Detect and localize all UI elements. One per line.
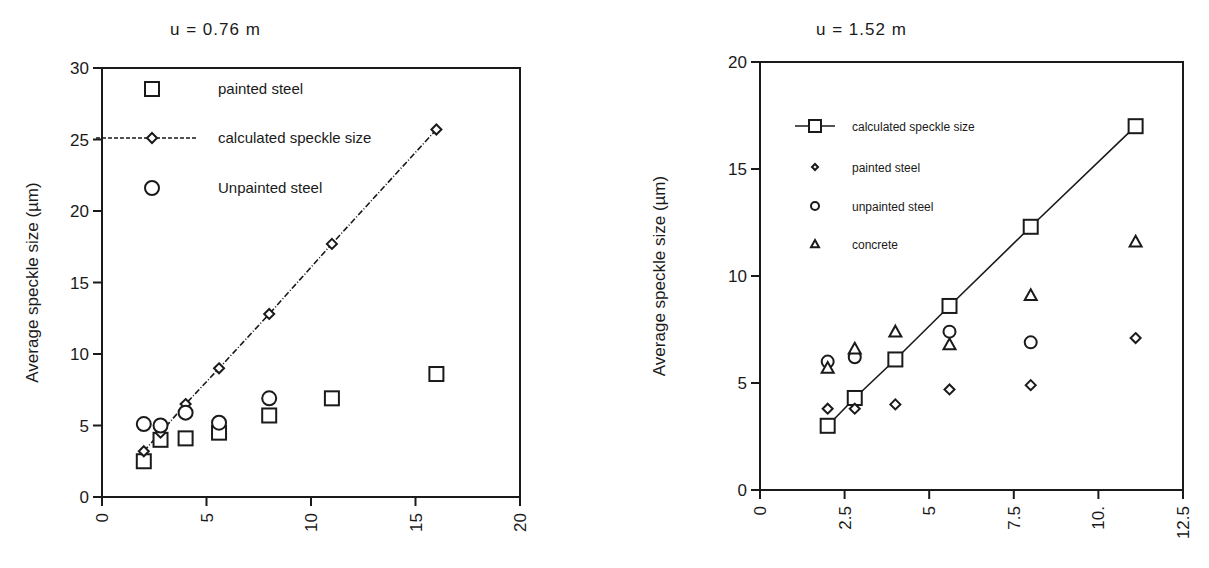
- data-point-square: [179, 431, 193, 445]
- legend-marker-diamond: [147, 133, 157, 143]
- data-point-square: [262, 408, 276, 422]
- legend-marker-square: [809, 120, 821, 132]
- data-point-diamond: [1026, 380, 1036, 390]
- legend-label: Unpainted steel: [218, 179, 322, 196]
- data-point-diamond: [1131, 333, 1141, 343]
- legend-marker-circle: [811, 202, 819, 210]
- data-point-diamond: [945, 384, 955, 394]
- y-tick-label: 0: [80, 488, 89, 507]
- y-tick-label: 25: [70, 131, 89, 150]
- legend-marker-square: [145, 82, 159, 96]
- y-tick-label: 15: [728, 160, 747, 179]
- x-tick-label: 0: [93, 513, 112, 522]
- data-point-circle: [212, 416, 226, 430]
- data-point-square: [888, 352, 902, 366]
- data-point-square: [325, 391, 339, 405]
- data-point-diamond: [823, 404, 833, 414]
- data-point-square: [1024, 220, 1038, 234]
- data-point-square: [1129, 119, 1143, 133]
- data-point-circle: [262, 391, 276, 405]
- plot-area-left: 05101520253005101520Average speckle size…: [0, 0, 600, 568]
- x-tick-label: 7.5: [1005, 506, 1024, 530]
- x-tick-label: 5: [198, 513, 217, 522]
- y-tick-label: 15: [70, 274, 89, 293]
- legend-label: calculated speckle size: [218, 129, 371, 146]
- y-tick-label: 5: [80, 417, 89, 436]
- chart-title-left: u = 0.76 m: [170, 20, 261, 40]
- legend-label: concrete: [852, 238, 898, 252]
- x-tick-label: 10.: [1089, 506, 1108, 530]
- x-tick-label: 10: [302, 513, 321, 532]
- legend-label: painted steel: [218, 80, 303, 97]
- y-tick-label: 30: [70, 59, 89, 78]
- chart-title-right: u = 1.52 m: [816, 20, 907, 40]
- legend-marker-circle: [145, 181, 159, 195]
- legend-marker-triangle: [811, 240, 819, 247]
- data-point-circle: [137, 417, 151, 431]
- data-point-triangle: [889, 326, 901, 337]
- data-point-square: [943, 299, 957, 313]
- y-tick-label: 20: [728, 53, 747, 72]
- data-point-triangle: [1130, 236, 1142, 247]
- chart-left: u = 0.76 m 05101520253005101520Average s…: [0, 0, 600, 568]
- data-point-triangle: [944, 338, 956, 349]
- y-axis-label: Average speckle size (µm): [23, 182, 42, 382]
- legend-label: painted steel: [852, 161, 920, 175]
- data-point-triangle: [849, 343, 861, 354]
- legend-label: calculated speckle size: [852, 120, 975, 134]
- y-tick-label: 5: [738, 374, 747, 393]
- x-tick-label: 12.5: [1174, 506, 1193, 539]
- legend-label: unpainted steel: [852, 200, 933, 214]
- y-tick-label: 10: [70, 345, 89, 364]
- data-point-circle: [944, 326, 956, 338]
- data-point-diamond: [890, 399, 900, 409]
- x-tick-label: 0: [751, 506, 770, 515]
- y-tick-label: 20: [70, 202, 89, 221]
- data-point-square: [429, 367, 443, 381]
- x-tick-label: 20: [511, 513, 530, 532]
- data-point-circle: [154, 419, 168, 433]
- chart-right: u = 1.52 m 0510152002.557.510.12.5Averag…: [620, 0, 1209, 568]
- y-tick-label: 0: [738, 481, 747, 500]
- x-tick-label: 5: [920, 506, 939, 515]
- y-tick-label: 10: [728, 267, 747, 286]
- legend-marker-diamond: [812, 164, 818, 170]
- data-point-triangle: [1025, 289, 1037, 300]
- plot-area-right: 0510152002.557.510.12.5Average speckle s…: [620, 0, 1209, 568]
- y-axis-label: Average speckle size (µm): [650, 176, 669, 376]
- x-tick-label: 15: [407, 513, 426, 532]
- data-point-circle: [179, 406, 193, 420]
- data-point-square: [821, 419, 835, 433]
- x-tick-label: 2.5: [836, 506, 855, 530]
- data-point-circle: [1025, 336, 1037, 348]
